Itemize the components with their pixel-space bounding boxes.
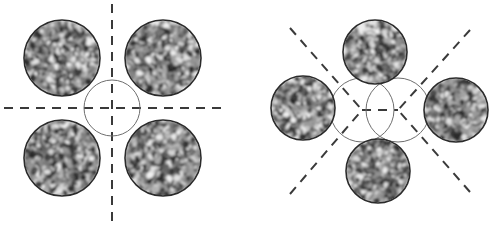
center-guide-circle-right [366, 78, 430, 142]
figure-canvas [0, 0, 493, 226]
square-arrangement-guide-circles [84, 80, 140, 136]
center-guide-circle [84, 80, 140, 136]
figure-root: Beam-spot packing arrangements with spec… [0, 0, 493, 226]
diamond-arrangement-guide-circles [330, 78, 430, 142]
